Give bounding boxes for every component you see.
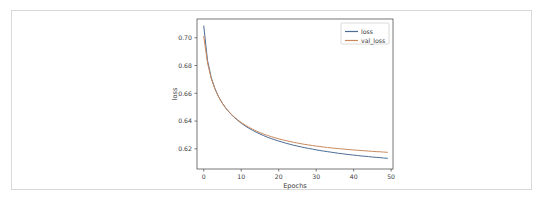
y-tick-label: 0.70 — [178, 34, 192, 41]
y-tick-label: 0.68 — [178, 62, 192, 69]
y-axis-label: loss — [171, 87, 179, 100]
y-axis-ticks: 0.620.640.660.680.70 — [178, 34, 197, 152]
figure-container: 01020304050 0.620.640.660.680.70 Epochs … — [11, 10, 532, 190]
x-tick-label: 30 — [312, 173, 320, 180]
x-tick-label: 0 — [202, 173, 206, 180]
loss-curve-chart: 01020304050 0.620.640.660.680.70 Epochs … — [12, 11, 533, 191]
y-tick-label: 0.66 — [178, 90, 192, 97]
caption-sliver — [11, 196, 441, 201]
y-tick-label: 0.64 — [178, 117, 192, 124]
y-tick-label: 0.62 — [178, 145, 192, 152]
x-tick-label: 40 — [350, 173, 358, 180]
legend-label-val_loss: val_loss — [361, 37, 385, 45]
x-axis-ticks: 01020304050 — [202, 169, 395, 180]
chart-svg: 01020304050 0.620.640.660.680.70 Epochs … — [12, 11, 533, 191]
chart-legend: lossval_loss — [341, 23, 389, 45]
x-tick-label: 10 — [237, 173, 245, 180]
x-tick-label: 20 — [275, 173, 283, 180]
x-axis-label: Epochs — [283, 182, 307, 190]
legend-label-loss: loss — [361, 28, 373, 35]
x-tick-label: 50 — [387, 173, 395, 180]
